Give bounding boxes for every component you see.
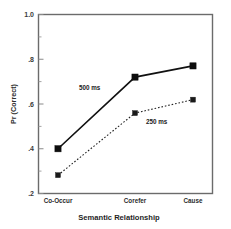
y-axis-title: Pr (Correct): [9, 83, 18, 124]
x-axis-title: Semantic Relationship: [78, 213, 160, 222]
x-tick-label-corefer: Corefer: [124, 197, 147, 204]
y-tick-label-3: .6: [28, 101, 34, 108]
y-tick-label-2: .8: [28, 56, 34, 63]
chart-background: [0, 0, 231, 229]
series-annotation-500ms: 500 ms: [79, 84, 101, 91]
line-chart: 1.0 .8 .6 .4 .2 Pr (Correct) 500 ms 250 …: [0, 0, 231, 229]
x-tick-label-cause: Cause: [184, 197, 203, 204]
series-annotation-250ms: 250 ms: [146, 118, 168, 125]
y-tick-label-5: .2: [28, 190, 34, 197]
y-tick-label-4: .4: [28, 145, 34, 152]
x-tick-label-co-occur: Co-Occur: [44, 197, 73, 204]
y-tick-label-1: 1.0: [24, 11, 34, 18]
figure-container: 1.0 .8 .6 .4 .2 Pr (Correct) 500 ms 250 …: [0, 0, 231, 229]
